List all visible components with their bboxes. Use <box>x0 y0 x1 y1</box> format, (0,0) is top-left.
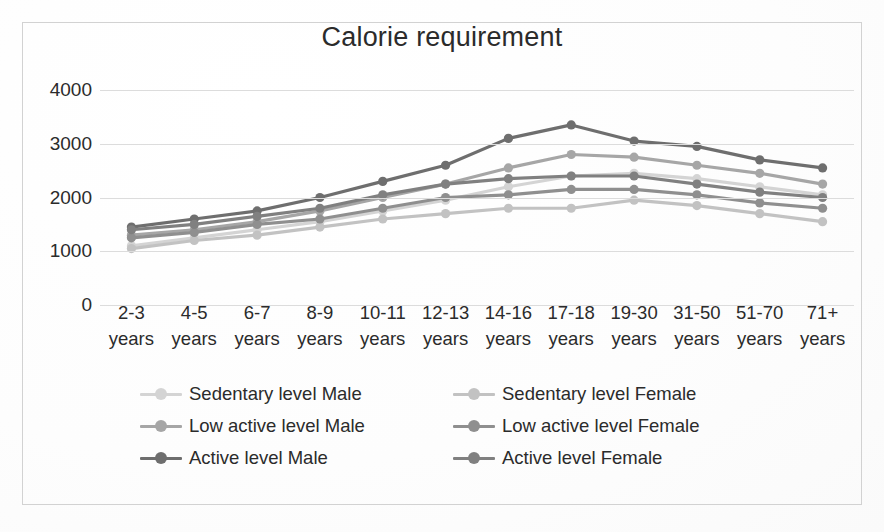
series-marker <box>504 174 513 183</box>
gridline <box>100 251 854 252</box>
series-marker <box>190 236 199 245</box>
series-marker <box>567 150 576 159</box>
series-marker <box>190 220 199 229</box>
series-marker <box>629 171 638 180</box>
series-marker <box>441 209 450 218</box>
legend-item[interactable]: Sedentary level Female <box>453 378 750 410</box>
series-marker <box>567 204 576 213</box>
legend-swatch-icon <box>453 451 495 465</box>
x-axis: 2-3years4-5years6-7years8-9years10-11yea… <box>100 300 854 360</box>
series-marker <box>567 120 576 129</box>
legend-item[interactable]: Low active level Male <box>140 410 437 442</box>
series-marker <box>692 161 701 170</box>
x-axis-tick-label: 71+years <box>791 300 854 360</box>
legend-label: Sedentary level Female <box>502 383 696 405</box>
series-marker <box>755 198 764 207</box>
series-marker <box>692 179 701 188</box>
series-marker <box>504 204 513 213</box>
x-axis-tick-label: 14-16years <box>477 300 540 360</box>
series-marker <box>441 161 450 170</box>
series-marker <box>378 214 387 223</box>
legend-item[interactable]: Active level Male <box>140 442 437 474</box>
series-marker <box>378 177 387 186</box>
series-marker <box>441 179 450 188</box>
series-marker <box>504 182 513 191</box>
series-marker <box>818 217 827 226</box>
series-marker <box>252 212 261 221</box>
x-axis-tick-label: 6-7years <box>226 300 289 360</box>
x-axis-tick-label: 8-9years <box>288 300 351 360</box>
series-line <box>131 176 822 230</box>
series-marker <box>315 204 324 213</box>
series-marker <box>567 185 576 194</box>
series-marker <box>504 163 513 172</box>
series-marker <box>755 209 764 218</box>
plot-area <box>100 90 854 305</box>
series-marker <box>252 231 261 240</box>
x-axis-tick-label: 12-13years <box>414 300 477 360</box>
legend-label: Low active level Female <box>502 415 699 437</box>
y-axis: 40003000200010000 <box>22 90 100 305</box>
y-axis-tick-label: 2000 <box>50 187 92 209</box>
x-axis-tick-label: 19-30years <box>603 300 666 360</box>
series-marker <box>755 155 764 164</box>
series-marker <box>755 188 764 197</box>
legend-item[interactable]: Sedentary level Male <box>140 378 437 410</box>
legend-swatch-icon <box>140 419 182 433</box>
series-marker <box>315 214 324 223</box>
legend-swatch-icon <box>140 451 182 465</box>
gridline <box>100 144 854 145</box>
legend-label: Low active level Male <box>189 415 365 437</box>
y-axis-tick-label: 1000 <box>50 240 92 262</box>
series-marker <box>755 169 764 178</box>
series-marker <box>127 233 136 242</box>
legend-swatch-icon <box>453 387 495 401</box>
plot-region: 40003000200010000 <box>22 90 862 305</box>
legend-label: Sedentary level Male <box>189 383 362 405</box>
legend-item[interactable]: Low active level Female <box>453 410 750 442</box>
series-marker <box>567 171 576 180</box>
series-marker <box>378 204 387 213</box>
series-marker <box>315 222 324 231</box>
series-marker <box>818 204 827 213</box>
x-axis-tick-label: 10-11years <box>351 300 414 360</box>
y-axis-tick-label: 0 <box>81 294 92 316</box>
x-axis-tick-label: 17-18years <box>540 300 603 360</box>
legend-item[interactable]: Active level Female <box>453 442 750 474</box>
series-marker <box>190 228 199 237</box>
chart-title: Calorie requirement <box>0 22 884 53</box>
legend-label: Active level Male <box>189 447 328 469</box>
legend-swatch-icon <box>453 419 495 433</box>
series-marker <box>818 163 827 172</box>
series-marker <box>504 134 513 143</box>
series-marker <box>252 220 261 229</box>
chart-legend: Sedentary level MaleSedentary level Fema… <box>140 378 750 474</box>
series-marker <box>692 201 701 210</box>
series-marker <box>127 225 136 234</box>
x-axis-tick-label: 31-50years <box>665 300 728 360</box>
x-axis-tick-label: 51-70years <box>728 300 791 360</box>
series-marker <box>818 179 827 188</box>
series-marker <box>629 153 638 162</box>
x-axis-tick-label: 2-3years <box>100 300 163 360</box>
gridline <box>100 90 854 91</box>
gridline <box>100 198 854 199</box>
y-axis-tick-label: 4000 <box>50 79 92 101</box>
legend-label: Active level Female <box>502 447 662 469</box>
series-marker <box>629 185 638 194</box>
legend-swatch-icon <box>140 387 182 401</box>
x-axis-tick-label: 4-5years <box>163 300 226 360</box>
y-axis-tick-label: 3000 <box>50 133 92 155</box>
